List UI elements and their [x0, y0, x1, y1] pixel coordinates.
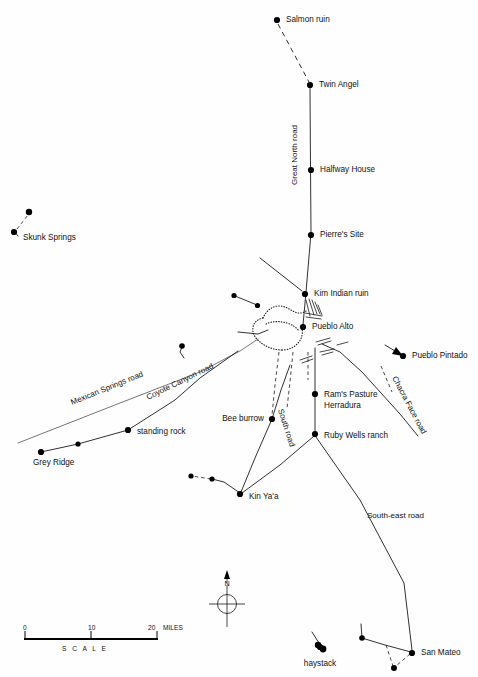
canyon-inner-wash: [266, 322, 299, 331]
waypoint-dot-kinyaa-west: [209, 476, 214, 481]
site-dot-pueblo-alto[interactable]: [300, 324, 306, 330]
site-dot-rams-pasture[interactable]: [312, 391, 318, 397]
road-segment-salmon-twinangel: [278, 24, 309, 82]
site-label-skunk-springs: Skunk Springs: [23, 233, 76, 242]
road-label-group: Great North roadMexican Springs roadCoyo…: [69, 125, 428, 520]
site-label-bee-burrow: Bee burrow: [222, 414, 264, 423]
scale-label-20: 20: [148, 624, 156, 631]
scale-caption: S C A L E: [62, 645, 108, 652]
road-kinyaa-west-solid: [212, 479, 240, 493]
road-label-mexican-springs-road: Mexican Springs road: [69, 370, 144, 407]
site-label-pueblo-alto: Pueblo Alto: [312, 322, 354, 331]
site-dot-halfway-house[interactable]: [308, 167, 314, 173]
terminal-dot-kinyaa-west: [188, 473, 193, 478]
terminal-dot-west-upper: [231, 293, 236, 298]
canyon-hachures-southeast: [300, 338, 348, 363]
road-great-north-trunk: [303, 87, 311, 325]
site-label-twin-angel: Twin Angel: [319, 80, 359, 89]
road-label-great-north-road: Great North road: [290, 125, 299, 185]
road-label-south-road: South road: [276, 408, 297, 448]
waypoint-dot-coyote: [75, 441, 80, 446]
road-kinyaa-west-dashed: [192, 476, 211, 479]
road-spur-west-upper: [235, 296, 257, 305]
site-dot-salmon-ruin[interactable]: [274, 17, 280, 23]
canyon-tributary-west: [272, 352, 279, 415]
compass-north-arrowhead: [224, 570, 230, 579]
scale-units-label: MILES: [163, 624, 183, 631]
canyon-rim-south: [282, 329, 302, 350]
road-south-east: [316, 437, 412, 650]
terminal-dot-san-mateo-south: [391, 665, 397, 671]
junction-dot-west-upper: [255, 303, 260, 308]
site-label-grey-ridge: Grey Ridge: [33, 458, 75, 467]
map-canvas: Salmon ruinTwin AngelHalfway HousePierre…: [0, 0, 478, 677]
site-dot-pierres-site[interactable]: [308, 232, 314, 238]
road-san-mateo-dashed-a: [386, 645, 393, 666]
site-label-ruby-wells-ranch: Ruby Wells ranch: [324, 431, 388, 440]
site-label-standing-rock: standing rock: [137, 427, 187, 436]
site-label-salmon-ruin: Salmon ruin: [286, 15, 330, 24]
canyon-tributary-mid: [287, 352, 293, 408]
road-san-mateo-west: [362, 638, 411, 652]
site-dot-pueblo-pintado[interactable]: [400, 353, 406, 359]
site-dot-san-mateo[interactable]: [409, 650, 415, 656]
terminal-dot-coyote-north: [179, 343, 185, 349]
site-dot-bee-burrow[interactable]: [269, 416, 275, 422]
site-label-rams-pasture: Ram's Pasture: [324, 390, 378, 399]
compass-north-label: N: [224, 579, 229, 588]
canyon-rim-north: [263, 306, 306, 318]
terminal-dot-skunk-north: [26, 209, 32, 215]
site-label-halfway-house: Halfway House: [320, 165, 376, 174]
site-dot-ruby-wells-ranch[interactable]: [312, 431, 318, 437]
site-label-group: Salmon ruinTwin AngelHalfway HousePierre…: [23, 15, 468, 668]
road-label-chacra-face-road: Chacra Face road: [390, 375, 428, 436]
road-skunk-springs-dashed: [17, 215, 28, 229]
road-lines: [14, 24, 418, 671]
haystack-connector: [312, 632, 319, 643]
canyon-hachures-north: [305, 299, 322, 319]
site-label-pierres-site: Pierre's Site: [320, 230, 364, 239]
site-dot-standing-rock[interactable]: [125, 427, 131, 433]
site-dot-kin-yaa[interactable]: [237, 491, 243, 497]
terminal-dot-san-mateo-west: [359, 635, 365, 641]
site-dot-twin-angel[interactable]: [307, 82, 313, 88]
site-dot-kim-indian-ruin[interactable]: [302, 291, 308, 297]
site-label-san-mateo: San Mateo: [421, 648, 461, 657]
map-figure: Salmon ruinTwin AngelHalfway HousePierre…: [0, 0, 478, 677]
site-label-herradura: Herradura: [324, 401, 361, 410]
site-dot-group: [11, 17, 415, 656]
site-label-kim-indian-ruin: Kim Indian ruin: [314, 289, 369, 298]
site-dot-skunk-springs[interactable]: [11, 229, 17, 235]
site-dot-haystack[interactable]: [317, 644, 323, 650]
scale-label-0: 0: [23, 624, 27, 631]
site-label-pueblo-pintado: Pueblo Pintado: [412, 351, 468, 360]
site-label-haystack: haystack: [304, 659, 337, 668]
road-spur-northwest: [260, 258, 302, 291]
site-label-kin-yaa: Kin Ya'a: [249, 492, 279, 501]
compass-rose: N: [209, 570, 245, 627]
scale-label-10: 10: [88, 624, 96, 631]
road-san-mateo-dashed-b: [396, 654, 410, 666]
road-label-south-east-road: South-east road: [367, 511, 424, 520]
scale-bar: 0 10 20 MILES S C A L E: [23, 624, 183, 652]
site-dot-grey-ridge[interactable]: [38, 449, 44, 455]
